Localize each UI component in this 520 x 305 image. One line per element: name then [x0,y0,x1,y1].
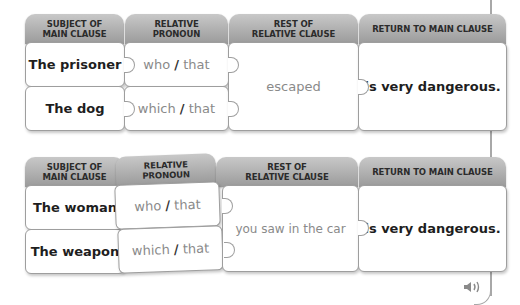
rest-text: escaped [266,79,320,94]
pronoun-text: which / that [138,101,215,116]
header-subject-line1: SUBJECT OF [43,19,107,29]
pronoun-card[interactable]: which / that [124,86,229,131]
pronoun-text: who / that [134,197,201,214]
pronoun-option-b: that [174,197,201,213]
pronoun-option-a: who [134,198,161,214]
header-return-text: RETURN TO MAIN CLAUSE [372,167,493,177]
header-subject-line2: MAIN CLAUSE [43,172,107,182]
pronoun-option-b: that [189,101,215,116]
subject-card[interactable]: The woman [25,185,125,230]
header-rest-line2: RELATIVE CLAUSE [245,172,328,182]
pronoun-option-a: who [143,57,170,72]
pronoun-text: which / that [132,241,210,259]
pronoun-option-a: which [138,101,176,116]
pronoun-separator: / [165,198,170,213]
rest-text: you saw in the car [235,222,345,236]
header-return: RETURN TO MAIN CLAUSE [359,157,506,187]
header-rest-line1: REST OF [252,19,335,29]
header-subject-line1: SUBJECT OF [43,162,107,172]
pronoun-card[interactable]: who / that [124,42,229,87]
header-rest: REST OFRELATIVE CLAUSE [229,14,358,44]
sentence-builder-2: SUBJECT OFMAIN CLAUSE RELATIVEPRONOUN RE… [0,155,520,275]
subject-text: The dog [45,101,104,116]
pronoun-card[interactable]: which / that [117,225,224,274]
header-return: RETURN TO MAIN CLAUSE [359,14,506,44]
pronoun-option-a: which [132,242,170,258]
return-text: is very dangerous. [364,79,500,94]
pronoun-separator: / [174,242,179,257]
header-subject-line2: MAIN CLAUSE [43,29,107,39]
subject-card[interactable]: The prisoner [25,42,125,87]
header-rest-line1: REST OF [245,162,328,172]
header-pronoun-line2: PRONOUN [153,29,201,39]
header-subject: SUBJECT OFMAIN CLAUSE [25,14,124,44]
speaker-icon[interactable] [463,280,483,294]
sentence-builder-1: SUBJECT OFMAIN CLAUSE RELATIVEPRONOUN RE… [0,14,520,134]
pronoun-card[interactable]: who / that [114,181,221,230]
pronoun-text: who / that [143,57,209,72]
pronoun-separator: / [180,101,185,116]
header-rest-line2: RELATIVE CLAUSE [252,29,335,39]
rest-card[interactable]: you saw in the car [222,185,359,272]
subject-card[interactable]: The weapon [25,229,125,274]
header-pronoun-line1: RELATIVE [153,19,201,29]
pronoun-option-b: that [182,241,209,257]
subject-text: The weapon [31,244,120,259]
header-return-text: RETURN TO MAIN CLAUSE [372,24,493,34]
subject-text: The prisoner [29,57,122,72]
rest-card[interactable]: escaped [228,42,359,131]
pronoun-option-b: that [183,57,209,72]
return-text: is very dangerous. [364,221,500,236]
subject-card[interactable]: The dog [25,86,125,131]
header-subject: SUBJECT OFMAIN CLAUSE [25,157,124,187]
header-rest: REST OFRELATIVE CLAUSE [216,157,358,187]
return-card[interactable]: is very dangerous. [358,42,507,131]
header-pronoun-line2: PRONOUN [142,169,190,181]
header-pronoun: RELATIVEPRONOUN [125,14,228,44]
return-card[interactable]: is very dangerous. [358,185,507,272]
subject-text: The woman [33,200,117,215]
pronoun-separator: / [174,57,179,72]
